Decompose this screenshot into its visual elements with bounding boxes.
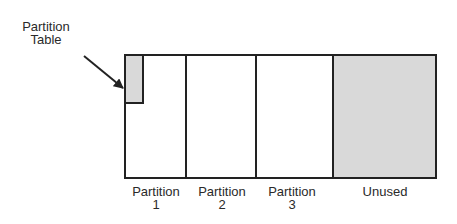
partition-1-label-line2: 1 bbox=[122, 198, 190, 211]
disk-partition-diagram: Partition Table Partition 1 Partition 2 … bbox=[0, 0, 457, 224]
unused-label: Unused bbox=[350, 185, 420, 198]
partition-3-label: Partition 3 bbox=[258, 185, 326, 211]
partition-3-label-line2: 3 bbox=[258, 198, 326, 211]
partition-table-callout: Partition Table bbox=[14, 20, 78, 46]
unused-label-line1: Unused bbox=[350, 185, 420, 198]
partition-1-label: Partition 1 bbox=[122, 185, 190, 211]
callout-line-2: Table bbox=[14, 33, 78, 46]
callout-arrow-icon bbox=[84, 56, 123, 88]
unused-region bbox=[333, 55, 436, 178]
partition-table-box bbox=[125, 55, 143, 103]
partition-2-label-line2: 2 bbox=[188, 198, 256, 211]
partition-2-label: Partition 2 bbox=[188, 185, 256, 211]
